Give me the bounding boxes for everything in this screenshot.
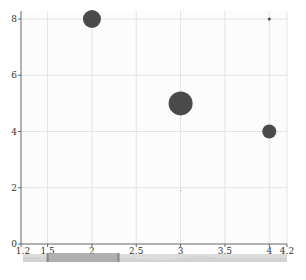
slider-end-handle[interactable] (118, 253, 120, 262)
y-tick-label: 6 (11, 70, 17, 80)
bubble-point[interactable] (268, 18, 271, 21)
plot-area (21, 11, 287, 244)
y-axis-ticks: 02468 (11, 14, 21, 249)
y-tick-label: 4 (11, 127, 17, 137)
bubble-point[interactable] (180, 190, 181, 191)
data-zoom-slider[interactable] (23, 253, 287, 262)
y-tick-label: 2 (11, 183, 17, 193)
slider-selected-window[interactable] (48, 253, 119, 262)
bubble-point[interactable] (83, 10, 101, 28)
y-tick-label: 8 (11, 14, 17, 24)
y-tick-label: 0 (11, 239, 17, 249)
bubble-point[interactable] (262, 125, 276, 139)
bubble-chart: 1.21.522.533.544.2 02468 (0, 0, 306, 280)
slider-start-handle[interactable] (47, 253, 49, 262)
bubble-point[interactable] (169, 91, 193, 115)
grid-lines (21, 11, 287, 244)
